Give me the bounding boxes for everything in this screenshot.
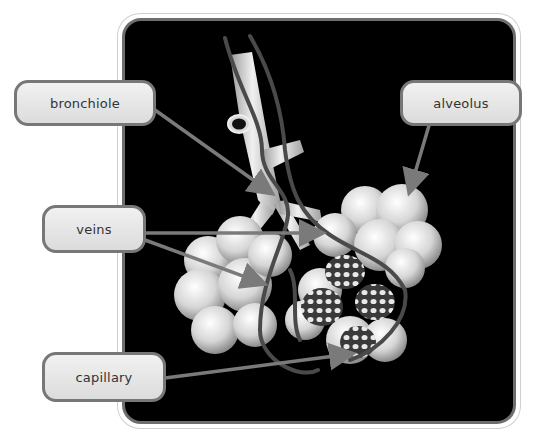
label-alveolus-text: alveolus — [433, 96, 488, 111]
label-capillary: capillary — [42, 352, 166, 402]
label-bronchiole-text: bronchiole — [50, 96, 120, 111]
label-veins-text: veins — [76, 222, 111, 237]
pointer-alveolus — [410, 122, 430, 190]
label-alveolus: alveolus — [400, 80, 522, 126]
label-veins: veins — [42, 205, 146, 253]
label-bronchiole: bronchiole — [14, 80, 156, 126]
label-capillary-text: capillary — [75, 370, 132, 385]
pointer-capillary — [165, 354, 350, 378]
left-alveolar-cluster — [174, 216, 292, 354]
